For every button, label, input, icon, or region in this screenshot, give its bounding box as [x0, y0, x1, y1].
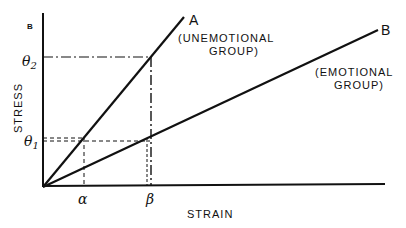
line-b-label: B	[381, 22, 390, 38]
tick-beta: β	[145, 191, 154, 207]
line-a-group-1: (UNEMOTIONAL	[178, 32, 274, 44]
line-a-group-2: GROUP)	[209, 45, 259, 57]
y-axis-label: STRESS	[12, 83, 24, 133]
stress-strain-diagram: B θ2 θ1 STRESS α β STRAIN A (UNEMOTIONAL…	[0, 0, 406, 228]
tick-theta1: θ1	[24, 133, 39, 151]
panel-label: B	[27, 22, 33, 31]
x-axis-label: STRAIN	[187, 208, 233, 220]
x-axis	[43, 184, 385, 186]
line-a	[43, 17, 184, 187]
tick-theta2: θ2	[22, 53, 37, 71]
line-b-group-1: (EMOTIONAL	[315, 66, 393, 78]
line-a-label: A	[189, 12, 199, 28]
tick-alpha: α	[78, 191, 88, 207]
line-b-group-2: GROUP)	[334, 79, 384, 91]
